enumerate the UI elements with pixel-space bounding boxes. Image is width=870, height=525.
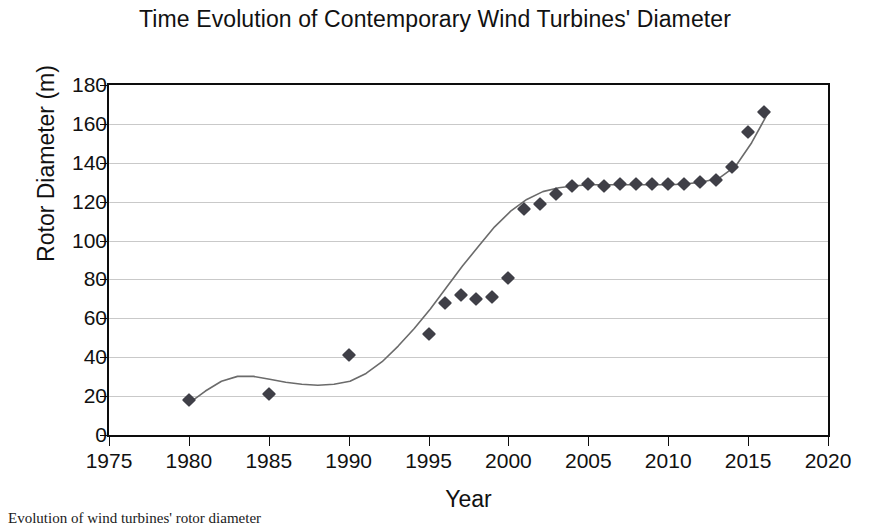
figure-caption: Evolution of wind turbines' rotor diamet… bbox=[8, 510, 261, 525]
y-tick-mark bbox=[100, 357, 107, 358]
y-tick-mark bbox=[100, 163, 107, 164]
x-tick-label: 1990 bbox=[314, 449, 384, 473]
x-tick-mark bbox=[748, 437, 749, 446]
chart-figure: Time Evolution of Contemporary Wind Turb… bbox=[0, 0, 870, 525]
y-tick-mark bbox=[100, 396, 107, 397]
y-tick-label: 20 bbox=[47, 384, 107, 408]
y-tick-mark bbox=[100, 318, 107, 319]
y-tick-mark bbox=[100, 279, 107, 280]
x-tick-mark bbox=[429, 437, 430, 446]
x-tick-mark bbox=[269, 437, 270, 446]
x-tick-mark bbox=[189, 437, 190, 446]
y-tick-label: 0 bbox=[47, 423, 107, 447]
y-tick-label: 120 bbox=[47, 190, 107, 214]
chart-title: Time Evolution of Contemporary Wind Turb… bbox=[85, 6, 785, 33]
x-tick-mark bbox=[109, 437, 110, 446]
x-tick-label: 1980 bbox=[154, 449, 224, 473]
x-tick-mark bbox=[828, 437, 829, 446]
x-tick-label: 2020 bbox=[793, 449, 863, 473]
y-tick-label: 140 bbox=[47, 151, 107, 175]
y-tick-label: 80 bbox=[47, 267, 107, 291]
x-tick-mark bbox=[668, 437, 669, 446]
x-axis-label: Year bbox=[107, 486, 830, 513]
x-tick-mark bbox=[588, 437, 589, 446]
x-tick-label: 1995 bbox=[394, 449, 464, 473]
x-tick-mark bbox=[508, 437, 509, 446]
y-tick-label: 160 bbox=[47, 112, 107, 136]
x-tick-label: 2015 bbox=[713, 449, 783, 473]
y-tick-mark bbox=[100, 85, 107, 86]
x-tick-label: 1975 bbox=[74, 449, 144, 473]
x-tick-label: 1985 bbox=[234, 449, 304, 473]
plot-area bbox=[107, 83, 830, 437]
y-tick-mark bbox=[100, 202, 107, 203]
y-tick-label: 100 bbox=[47, 229, 107, 253]
y-axis: 020406080100120140160180 bbox=[0, 83, 107, 437]
y-tick-mark bbox=[100, 435, 107, 436]
x-tick-mark bbox=[349, 437, 350, 446]
x-axis: 1975198019851990199520002005201020152020 bbox=[107, 437, 832, 477]
y-tick-label: 180 bbox=[47, 73, 107, 97]
y-tick-label: 60 bbox=[47, 306, 107, 330]
plot-inner bbox=[109, 85, 828, 435]
x-tick-label: 2010 bbox=[633, 449, 703, 473]
trend-line bbox=[109, 85, 832, 439]
y-tick-label: 40 bbox=[47, 345, 107, 369]
y-tick-mark bbox=[100, 241, 107, 242]
x-tick-label: 2005 bbox=[553, 449, 623, 473]
x-tick-label: 2000 bbox=[473, 449, 543, 473]
y-tick-mark bbox=[100, 124, 107, 125]
